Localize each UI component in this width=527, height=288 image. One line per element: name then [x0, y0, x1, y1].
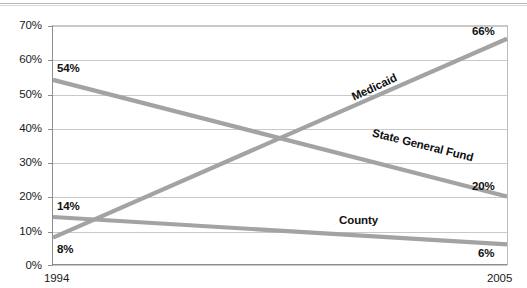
value-label-state-general-fund-start: 54% — [57, 62, 79, 74]
series-layer — [0, 0, 527, 288]
x-tick-label-start: 1994 — [44, 272, 69, 284]
series-name-label-county: County — [339, 214, 378, 226]
value-label-county-end: 6% — [478, 247, 494, 259]
value-label-state-general-fund-end: 20% — [472, 180, 494, 192]
chart-screenshot: 70% 60% 50% 40% 30% 20% 10% 0% 54% 14% 8… — [0, 0, 527, 288]
value-label-medicaid-start: 8% — [57, 243, 73, 255]
x-tick-label-end: 2005 — [487, 272, 512, 284]
series-line-county — [53, 217, 507, 244]
value-label-medicaid-end: 66% — [472, 25, 494, 37]
value-label-county-start: 14% — [57, 200, 79, 212]
series-line-state-general-fund — [53, 80, 507, 197]
